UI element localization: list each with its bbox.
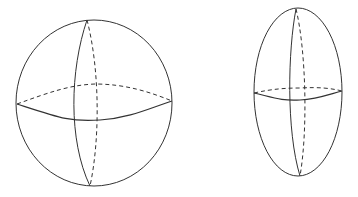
ellipsoid-outline: [254, 8, 342, 176]
ellipsoids-diagram: [0, 0, 358, 197]
ellipsoid-meridian-front: [290, 9, 300, 176]
ellipsoid-equator-front: [254, 91, 342, 100]
ellipsoid-meridian-back: [296, 9, 305, 176]
diagram-canvas: [0, 0, 358, 197]
sphere-meridian-back: [87, 20, 97, 186]
ellipsoid-equator-back: [254, 88, 342, 93]
sphere-equator-front: [17, 101, 172, 120]
prolate-ellipsoid: [254, 8, 342, 176]
sphere-meridian-front: [74, 20, 90, 186]
sphere-equator-back: [17, 84, 172, 104]
sphere: [16, 20, 172, 186]
